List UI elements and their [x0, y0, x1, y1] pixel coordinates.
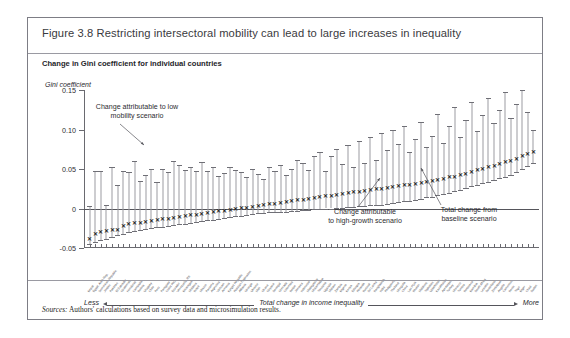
- low-mobility-cap: [531, 130, 536, 131]
- low-mobility-cap: [104, 205, 109, 206]
- figure-subtitle: Change in Gini coefficient for individua…: [42, 59, 222, 68]
- range-stem: [353, 167, 354, 207]
- low-mobility-cap: [272, 171, 277, 172]
- baseline-x-marker: ✕: [424, 181, 429, 186]
- baseline-x-marker: ✕: [447, 176, 452, 181]
- baseline-x-marker: ✕: [115, 228, 120, 233]
- baseline-x-marker: ✕: [289, 199, 294, 204]
- x-tick: [168, 244, 169, 248]
- baseline-x-marker: ✕: [160, 218, 165, 223]
- low-mobility-cap: [317, 152, 322, 153]
- baseline-x-marker: ✕: [199, 212, 204, 217]
- x-tick: [241, 244, 242, 248]
- high-growth-cap: [205, 220, 210, 221]
- high-growth-cap: [486, 182, 491, 183]
- annotation-line: Change attributable: [305, 208, 425, 217]
- x-tick: [376, 244, 377, 248]
- x-tick: [258, 244, 259, 248]
- x-tick: [528, 244, 529, 248]
- x-tick: [421, 244, 422, 248]
- range-stem: [477, 131, 478, 185]
- low-mobility-cap: [244, 177, 249, 178]
- x-tick: [399, 244, 400, 248]
- low-mobility-cap: [227, 167, 232, 168]
- baseline-x-marker: ✕: [379, 187, 384, 192]
- high-growth-cap: [177, 224, 182, 225]
- x-tick: [466, 244, 467, 248]
- high-growth-cap: [525, 166, 530, 167]
- baseline-x-marker: ✕: [250, 205, 255, 210]
- high-growth-cap: [531, 163, 536, 164]
- low-mobility-cap: [362, 163, 367, 164]
- baseline-x-marker: ✕: [93, 232, 98, 237]
- high-growth-cap: [447, 193, 452, 194]
- baseline-x-marker: ✕: [491, 164, 496, 169]
- high-growth-cap: [244, 215, 249, 216]
- high-growth-cap: [250, 214, 255, 215]
- high-growth-cap: [115, 235, 120, 236]
- baseline-x-marker: ✕: [430, 180, 435, 185]
- high-growth-cap: [463, 188, 468, 189]
- x-tick: [331, 244, 332, 248]
- x-tick: [118, 244, 119, 248]
- x-tick: [101, 244, 102, 248]
- title-divider: [28, 53, 542, 54]
- high-growth-cap: [233, 216, 238, 217]
- baseline-x-marker: ✕: [239, 207, 244, 212]
- range-stem: [381, 133, 382, 204]
- high-growth-cap: [520, 169, 525, 170]
- high-growth-cap: [272, 212, 277, 213]
- baseline-x-marker: ✕: [143, 220, 148, 225]
- low-mobility-cap: [368, 137, 373, 138]
- high-growth-cap: [188, 223, 193, 224]
- figure-page: Figure 3.8 Restricting intersectoral mob…: [0, 0, 570, 338]
- high-growth-cap: [413, 200, 418, 201]
- y-tick: [79, 130, 84, 131]
- high-growth-cap: [407, 201, 412, 202]
- x-tick: [219, 244, 220, 248]
- low-mobility-cap: [177, 165, 182, 166]
- low-mobility-cap: [222, 173, 227, 174]
- high-growth-cap: [216, 219, 221, 220]
- baseline-x-marker: ✕: [205, 211, 210, 216]
- range-stem: [336, 149, 337, 207]
- arrow-right-icon: [514, 302, 518, 306]
- low-mobility-cap: [216, 176, 221, 177]
- baseline-x-marker: ✕: [334, 193, 339, 198]
- baseline-x-marker: ✕: [514, 157, 519, 162]
- x-tick: [370, 244, 371, 248]
- low-mobility-cap: [475, 131, 480, 132]
- annotation-high-growth: Change attributableto high-growth scenar…: [305, 208, 425, 226]
- low-mobility-cap: [183, 170, 188, 171]
- baseline-x-marker: ✕: [256, 204, 261, 209]
- x-tick: [286, 244, 287, 248]
- x-tick: [202, 244, 203, 248]
- baseline-x-marker: ✕: [441, 177, 446, 182]
- x-tick: [500, 244, 501, 248]
- low-mobility-cap: [334, 149, 339, 150]
- range-stem: [432, 136, 433, 197]
- figure-panel: Figure 3.8 Restricting intersectoral mob…: [27, 17, 543, 320]
- high-growth-cap: [452, 191, 457, 192]
- range-stem: [348, 145, 349, 207]
- high-growth-cap: [278, 212, 283, 213]
- high-growth-cap: [154, 227, 159, 228]
- low-mobility-cap: [211, 167, 216, 168]
- baseline-x-marker: ✕: [407, 183, 412, 188]
- x-tick: [404, 244, 405, 248]
- baseline-x-marker: ✕: [194, 213, 199, 218]
- x-tick: [253, 244, 254, 248]
- baseline-x-marker: ✕: [520, 154, 525, 159]
- baseline-x-marker: ✕: [503, 161, 508, 166]
- high-growth-cap: [93, 242, 98, 243]
- high-growth-cap: [104, 239, 109, 240]
- high-growth-cap: [424, 197, 429, 198]
- x-tick: [410, 244, 411, 248]
- low-mobility-cap: [374, 160, 379, 161]
- x-tick: [365, 244, 366, 248]
- baseline-x-marker: ✕: [418, 181, 423, 186]
- baseline-x-marker: ✕: [497, 162, 502, 167]
- low-mobility-cap: [261, 179, 266, 180]
- baseline-x-marker: ✕: [98, 230, 103, 235]
- range-stem: [527, 112, 528, 166]
